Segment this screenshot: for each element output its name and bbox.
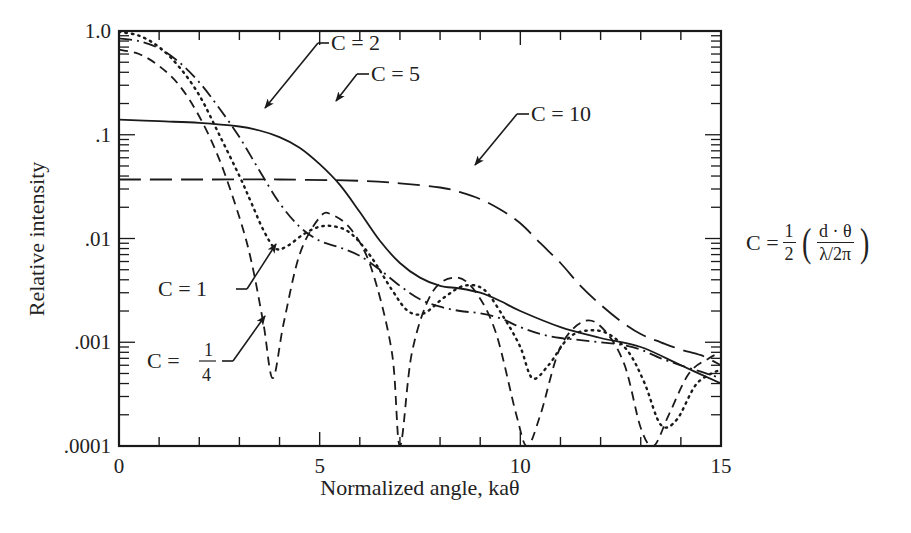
annotation-c2: C = 2 <box>331 30 380 55</box>
y-tick-label: .1 <box>95 123 111 147</box>
x-axis-title: Normalized angle, kaθ <box>320 475 519 500</box>
annotation-arrow <box>247 244 276 289</box>
annotation-arrow <box>475 114 517 165</box>
annotation-arrow <box>233 316 265 361</box>
y-tick-label: .001 <box>74 330 111 354</box>
x-tick-label: 0 <box>114 454 125 478</box>
series-c-1-4 <box>119 50 721 447</box>
formula-inner-den: λ/2π <box>819 243 851 263</box>
x-tick-label: 15 <box>711 454 732 478</box>
formula-left-paren: ( <box>802 223 811 263</box>
annotation-c-quarter-prefix: C = <box>147 348 180 373</box>
formula-inner: d · θ λ/2π <box>817 222 854 263</box>
c-definition-formula: C = 1 2 ( d · θ λ/2π ) <box>746 222 871 263</box>
annotation-c-quarter-num: 1 <box>204 340 213 360</box>
formula-half-den: 2 <box>785 243 794 263</box>
y-tick-label: .0001 <box>64 434 111 458</box>
annotation-arrow <box>336 74 357 101</box>
annotation-arrow <box>265 43 318 108</box>
annotation-c-quarter-den: 4 <box>202 365 211 385</box>
annotation-c5: C = 5 <box>371 61 420 86</box>
formula-inner-num: d · θ <box>817 222 854 243</box>
chart: 0510151.0.1.01.001.0001 Normalized angle… <box>0 0 911 533</box>
annotation-c1: C = 1 <box>158 276 207 301</box>
y-tick-label: .01 <box>85 227 111 251</box>
formula-right-paren: ) <box>860 223 869 263</box>
y-tick-label: 1.0 <box>85 19 111 43</box>
formula-lhs: C = <box>746 230 779 256</box>
formula-half: 1 2 <box>783 222 796 263</box>
axis-tick-labels: 0510151.0.1.01.001.0001 <box>64 19 732 478</box>
formula-half-num: 1 <box>783 222 796 243</box>
annotation-c10: C = 10 <box>531 101 591 126</box>
y-axis-title: Relative intensity <box>24 162 49 317</box>
series-c-10 <box>119 179 721 365</box>
